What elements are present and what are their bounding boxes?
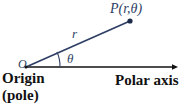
polar-axis-label: Polar axis bbox=[115, 73, 178, 88]
radius-label: r bbox=[72, 27, 77, 40]
point-p-label-text: P(r,θ) bbox=[110, 1, 142, 16]
origin-symbol-label: O bbox=[18, 58, 27, 70]
polar-coordinate-diagram: P(r,θ) r θ O Origin (pole) Polar axis bbox=[0, 0, 182, 111]
point-p-dot bbox=[127, 18, 132, 23]
pole-word-label: (pole) bbox=[2, 88, 39, 103]
radius-ray bbox=[26, 21, 130, 67]
angle-label: θ bbox=[67, 52, 73, 65]
point-p-label: P(r,θ) bbox=[110, 2, 142, 16]
angle-arc bbox=[57, 52, 60, 67]
origin-word-label: Origin bbox=[2, 71, 45, 86]
polar-axis-arrowhead bbox=[172, 64, 178, 70]
